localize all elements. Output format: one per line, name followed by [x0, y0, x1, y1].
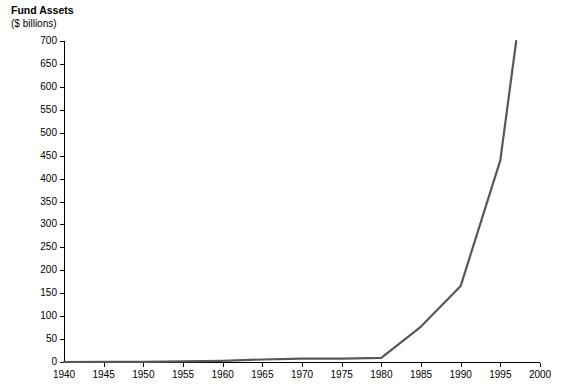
chart-container: Fund Assets ($ billions) 050100150200250… — [0, 0, 562, 391]
series-layer — [0, 0, 562, 391]
series-line-fund-assets — [64, 41, 516, 362]
